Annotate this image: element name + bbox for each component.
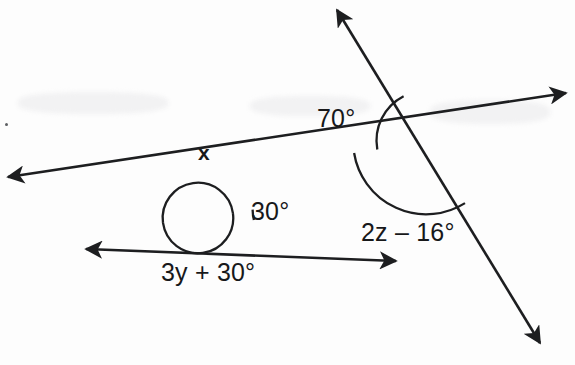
geometry-figure [0, 0, 575, 365]
arc-angle-70 [377, 96, 404, 149]
diagram-canvas: x 30° 3y + 30° 70° 2z – 16° [0, 0, 575, 365]
angle-label-x: x [198, 142, 210, 163]
arc-angle-x [163, 183, 233, 223]
angle-label-2z-minus-16: 2z – 16° [361, 220, 455, 245]
line-shallow-rising [8, 93, 566, 177]
arc-angle-3y-plus-30 [163, 213, 233, 253]
arc-angle-2z-minus-16 [354, 153, 465, 214]
angle-label-70: 70° [317, 106, 355, 131]
angle-label-30: 30° [251, 199, 289, 224]
line-steep [337, 10, 540, 343]
angle-label-3y-plus-30: 3y + 30° [161, 260, 255, 285]
